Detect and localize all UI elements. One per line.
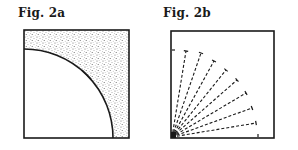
ray-end-tick xyxy=(256,121,257,125)
ray-end-tick xyxy=(184,51,188,52)
figure-2b xyxy=(171,31,274,138)
figure-2a xyxy=(24,30,129,138)
origin-cluster xyxy=(171,132,176,138)
figures-canvas xyxy=(0,0,298,150)
figure-2b-frame xyxy=(171,31,274,138)
